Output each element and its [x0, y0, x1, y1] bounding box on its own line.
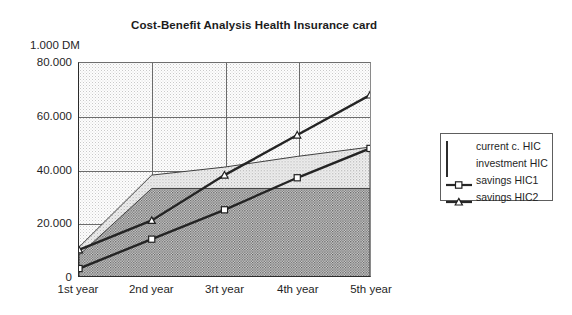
data-point-square-marker — [149, 236, 155, 242]
x-axis-tick-label: 1st year — [58, 283, 99, 295]
y-axis-tick-label: 40.000 — [37, 164, 72, 176]
area-light-swatch-icon — [446, 142, 472, 151]
y-axis-tick-label: 20.000 — [37, 217, 72, 229]
x-axis-tick-label: 5th year — [350, 283, 392, 295]
chart-screenshot: Cost-Benefit Analysis Health Insurance c… — [0, 0, 572, 315]
data-point-square-marker — [367, 145, 370, 151]
legend-item-label: savings HIC1 — [476, 174, 538, 186]
plot-area — [78, 62, 371, 277]
data-point-square-marker — [294, 175, 300, 181]
legend-item-label: savings HIC2 — [476, 191, 538, 203]
data-point-square-marker — [79, 265, 82, 271]
x-axis-tick-label: 3rt year — [205, 283, 244, 295]
line-square-marker-icon — [446, 176, 472, 185]
chart-legend: current c. HIC investment HIC savings HI… — [440, 133, 553, 201]
legend-item-label: investment HIC — [476, 157, 548, 169]
legend-item-savings-hic1[interactable]: savings HIC1 — [446, 172, 547, 188]
y-axis-tick-label: 0 — [66, 271, 72, 283]
x-axis-tick-labels: 1st year2nd year3rt year4th year5th year — [78, 283, 371, 303]
x-axis-tick-label: 2nd year — [129, 283, 174, 295]
y-axis-tick-labels: 020.00040.00060.00080.000 — [0, 62, 72, 277]
y-axis-tick-label: 60.000 — [37, 110, 72, 122]
y-axis-tick-label: 80.000 — [37, 56, 72, 68]
chart-title: Cost-Benefit Analysis Health Insurance c… — [131, 19, 461, 31]
legend-item-savings-hic2[interactable]: savings HIC2 — [446, 189, 547, 205]
legend-item-current-c-hic[interactable]: current c. HIC — [446, 138, 547, 154]
data-point-triangle-marker — [366, 91, 370, 98]
x-axis-tick-label: 4th year — [277, 283, 319, 295]
data-point-square-marker — [221, 207, 227, 213]
area-dark-swatch-icon — [446, 159, 472, 168]
line-triangle-marker-icon — [446, 193, 472, 202]
chart-data-layer — [79, 63, 370, 277]
legend-item-investment-hic[interactable]: investment HIC — [446, 155, 547, 171]
legend-item-label: current c. HIC — [476, 140, 541, 152]
y-axis-unit-label: 1.000 DM — [30, 39, 80, 51]
